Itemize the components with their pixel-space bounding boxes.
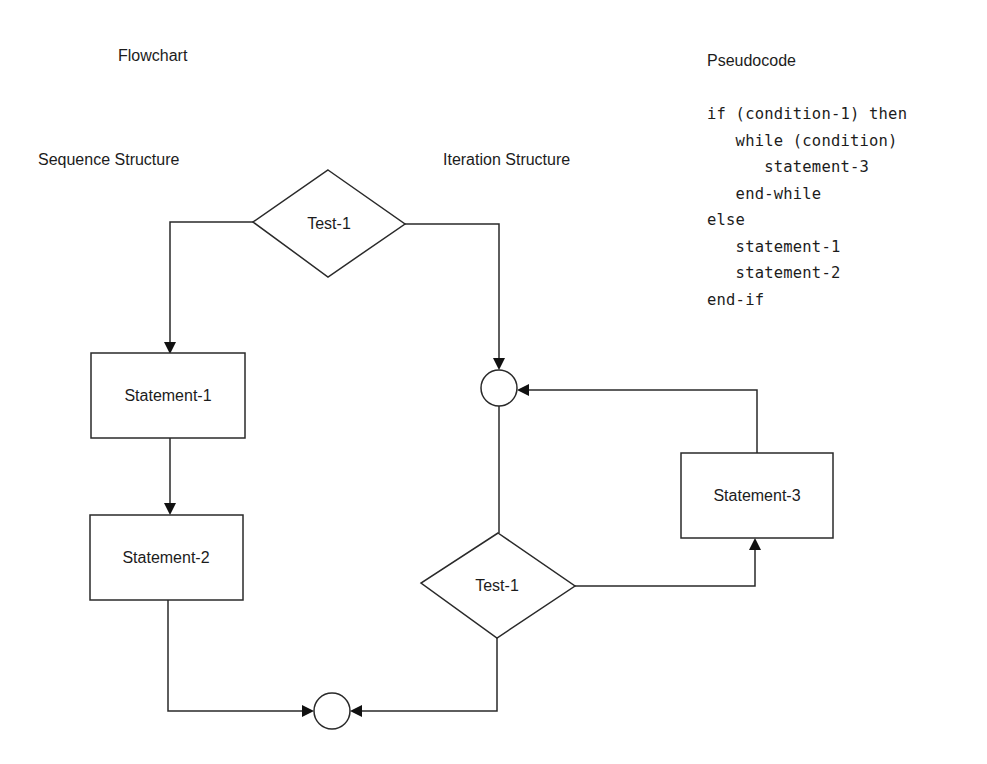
statement-1-label: Statement-1 — [124, 387, 211, 404]
arrow-right-icon — [302, 705, 314, 717]
arrow-left-icon — [350, 705, 362, 717]
statement-3-box: Statement-3 — [681, 453, 833, 538]
edge-decision-to-loop-connector — [405, 224, 499, 362]
edge-statement-3-to-loop-connector — [526, 390, 757, 453]
end-connector-circle — [314, 693, 350, 729]
arrowheads — [164, 342, 761, 717]
arrow-down-icon — [493, 358, 505, 370]
arrow-down-icon — [164, 503, 176, 515]
edge-loop-test-to-end-connector — [358, 638, 497, 711]
arrow-down-icon — [164, 342, 176, 354]
statement-3-label: Statement-3 — [713, 487, 800, 504]
decision-top: Test-1 — [253, 170, 405, 277]
edge-loop-test-to-statement-3 — [575, 546, 755, 586]
statement-1-box: Statement-1 — [91, 353, 245, 438]
edge-statement-2-to-end-connector — [168, 600, 306, 711]
arrow-up-icon — [749, 538, 761, 550]
statement-2-box: Statement-2 — [90, 515, 243, 600]
edge-decision-to-statement-1 — [170, 222, 253, 345]
decision-loop-label: Test-1 — [475, 577, 519, 594]
loop-connector-circle — [481, 370, 517, 406]
decision-top-label: Test-1 — [307, 215, 351, 232]
flowchart-diagram: Test-1 Statement-1 Statement-2 Test-1 St… — [0, 0, 987, 764]
arrow-left-icon — [517, 384, 529, 396]
decision-loop: Test-1 — [421, 533, 575, 638]
flowchart-edges — [168, 222, 757, 711]
statement-2-label: Statement-2 — [122, 549, 209, 566]
